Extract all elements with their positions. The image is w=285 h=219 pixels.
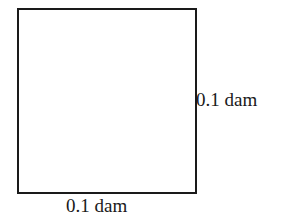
square-shape [17,8,197,194]
bottom-side-length-label: 0.1 dam [66,196,127,216]
right-side-length-label: 0.1 dam [196,90,257,110]
